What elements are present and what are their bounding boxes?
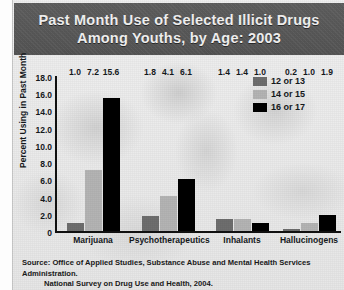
- x-axis-line: [55, 231, 341, 233]
- page-title-line-2: Among Youths, by Age: 2003: [77, 29, 281, 47]
- bar-column: 4.1: [160, 78, 177, 231]
- bar: 1.9: [319, 215, 336, 231]
- bar-group: 0.21.01.9: [277, 78, 341, 231]
- bar-value-label: 1.4: [218, 67, 230, 77]
- bar-value-label: 1.0: [254, 67, 266, 77]
- bar-value-label: 1.0: [69, 67, 81, 77]
- bar-column: 1.8: [142, 78, 159, 231]
- bar-value-label: 4.1: [162, 67, 174, 77]
- bar: 15.6: [103, 98, 120, 231]
- y-axis-tick-label: 4.0: [40, 194, 52, 204]
- y-axis-tick-label: 12.0: [35, 125, 52, 135]
- bar-column: 1.0: [252, 78, 269, 231]
- bar-value-label: 6.1: [180, 67, 192, 77]
- bar: 1.4: [234, 219, 251, 231]
- bar-group: 1.41.41.0: [207, 78, 277, 231]
- x-axis-category-label: Marijuana: [57, 235, 129, 245]
- left-margin-strip: [0, 0, 13, 290]
- y-axis-tick-label: 0: [47, 228, 52, 238]
- y-axis-tick-label: 16.0: [35, 90, 52, 100]
- bar-value-label: 1.0: [303, 67, 315, 77]
- bar-value-label: 7.2: [87, 67, 99, 77]
- y-axis-tick-label: 18.0: [35, 73, 52, 83]
- bar: 4.1: [160, 196, 177, 231]
- bar-column: 1.9: [319, 78, 336, 231]
- bar-group: 1.07.215.6: [57, 78, 129, 231]
- bar-value-label: 0.2: [285, 67, 297, 77]
- bar-value-label: 1.9: [321, 67, 333, 77]
- y-axis-tick-label: 2.0: [40, 211, 52, 221]
- bar-column: 6.1: [178, 78, 195, 231]
- page-title-line-1: Past Month Use of Selected Illicit Drugs: [38, 11, 319, 29]
- bar-column: 1.4: [234, 78, 251, 231]
- bar: 0.2: [283, 229, 300, 231]
- bar: 1.4: [216, 219, 233, 231]
- source-note: Source: Office of Applied Studies, Subst…: [22, 258, 340, 290]
- y-axis-tick-label: 14.0: [35, 107, 52, 117]
- bar-group: 1.84.16.1: [129, 78, 207, 231]
- chart-poster: Past Month Use of Selected Illicit Drugs…: [0, 0, 344, 290]
- x-axis-category-labels: MarijuanaPsychotherapeuticsInhalantsHall…: [57, 235, 341, 245]
- bar-value-label: 1.4: [236, 67, 248, 77]
- bar: 6.1: [178, 179, 195, 231]
- bar-value-label: 1.8: [144, 67, 156, 77]
- bar-column: 0.2: [283, 78, 300, 231]
- bar-column: 1.0: [67, 78, 84, 231]
- source-line-1: Source: Office of Applied Studies, Subst…: [22, 258, 311, 278]
- y-axis-tick-label: 8.0: [40, 159, 52, 169]
- bar-column: 1.0: [301, 78, 318, 231]
- x-axis-category-label: Inhalants: [207, 235, 277, 245]
- source-line-2: National Survey on Drug Use and Health, …: [22, 279, 340, 290]
- y-axis-tick-label: 6.0: [40, 176, 52, 186]
- bar: 1.0: [67, 223, 84, 232]
- bar-column: 1.4: [216, 78, 233, 231]
- y-axis-tick-label: 10.0: [35, 142, 52, 152]
- bar-column: 15.6: [103, 78, 120, 231]
- x-axis-category-label: Hallucinogens: [277, 235, 341, 245]
- y-axis-tick-labels: 18.016.014.012.010.08.06.04.02.00: [26, 78, 52, 233]
- bar-value-label: 15.6: [103, 67, 120, 77]
- bar: 1.8: [142, 216, 159, 231]
- bar: 1.0: [252, 223, 269, 232]
- x-axis-category-label: Psychotherapeutics: [129, 235, 207, 245]
- chart-title-band: Past Month Use of Selected Illicit Drugs…: [14, 3, 344, 55]
- bar-column: 7.2: [85, 78, 102, 231]
- bar: 1.0: [301, 223, 318, 232]
- bar-plot-area: 1.07.215.61.84.16.11.41.41.00.21.01.9: [57, 78, 341, 231]
- bar: 7.2: [85, 170, 102, 231]
